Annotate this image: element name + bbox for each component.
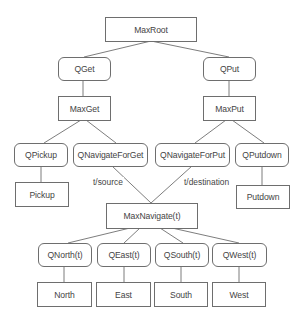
edge-maxnavigate-qsouth xyxy=(160,228,183,243)
node-qnavigateforget: QNavigateForGet xyxy=(73,143,148,167)
node-qputdown: QPutdown xyxy=(235,143,289,167)
node-maxget: MaxGet xyxy=(58,96,111,121)
edge-label-source: t/source xyxy=(92,177,124,187)
node-qnavigateforput: QNavigateForPut xyxy=(155,143,230,167)
edge-maxnavigate-qwest xyxy=(172,228,239,243)
edge-maxnavigate-qeast xyxy=(124,228,140,243)
node-qeast: QEast(t) xyxy=(97,243,151,267)
node-maxroot: MaxRoot xyxy=(105,17,197,42)
node-west: West xyxy=(212,282,266,307)
edge-maxput-qnavigateforput xyxy=(195,120,226,143)
node-south: South xyxy=(154,282,208,307)
node-qsouth: QSouth(t) xyxy=(155,243,209,267)
edge-maxget-qnavigateforget xyxy=(86,120,116,143)
node-maxput: MaxPut xyxy=(203,96,256,121)
edge-label-destination: t/destination xyxy=(183,177,230,187)
node-qput: QPut xyxy=(203,57,256,81)
node-maxnavigate: MaxNavigate(t) xyxy=(106,203,198,229)
edge-maxroot-qget xyxy=(84,41,151,57)
node-qpickup: QPickup xyxy=(14,143,68,167)
edge-maxput-qputdown xyxy=(232,120,264,143)
node-qnorth: QNorth(t) xyxy=(38,243,92,267)
node-qget: QGet xyxy=(58,57,111,81)
edge-maxnavigate-qnorth xyxy=(68,228,130,243)
node-qwest: QWest(t) xyxy=(212,243,267,267)
node-putdown: Putdown xyxy=(236,185,290,209)
edge-maxroot-qput xyxy=(151,41,229,57)
node-north: North xyxy=(37,282,92,307)
edge-maxget-qpickup xyxy=(44,120,81,143)
node-pickup: Pickup xyxy=(15,182,69,207)
node-east: East xyxy=(96,282,151,307)
